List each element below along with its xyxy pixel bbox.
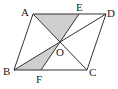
label-a: A xyxy=(21,6,29,18)
label-d: D xyxy=(107,7,115,19)
label-o: O xyxy=(56,46,64,58)
label-f: F xyxy=(36,73,42,85)
label-b: B xyxy=(3,65,10,77)
label-c: C xyxy=(89,66,96,78)
parallelogram-diagram: A E D O B F C xyxy=(0,0,118,89)
label-e: E xyxy=(76,1,83,13)
